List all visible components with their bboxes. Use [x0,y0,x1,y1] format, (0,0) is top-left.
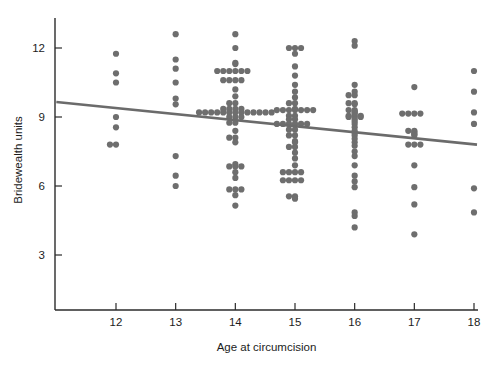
data-point [346,100,352,106]
data-point [352,92,358,98]
data-point [292,162,298,168]
y-tick-label: 6 [39,180,45,192]
data-point [346,92,352,98]
data-point [292,73,298,79]
data-point [173,101,179,107]
data-point [411,84,417,90]
data-point [220,68,226,74]
data-point [232,86,238,92]
x-tick-label: 16 [348,316,361,328]
data-point [471,209,477,215]
data-point [173,183,179,189]
data-point [232,128,238,134]
x-tick-label: 18 [468,316,481,328]
data-point [232,192,238,198]
data-point [292,82,298,88]
data-point [113,79,119,85]
data-point [292,89,298,95]
data-point [232,31,238,37]
data-point [232,93,238,99]
data-point [286,127,292,133]
data-point [226,77,232,83]
chart-figure: 36912 12131415161718 Age at circumcision… [0,0,503,371]
data-point [173,173,179,179]
data-point [286,169,292,175]
data-points-group [107,31,477,237]
data-point [208,109,214,115]
data-point [292,150,298,156]
regression-trend-line [56,102,477,145]
data-point [238,114,244,120]
x-tick-label: 13 [169,316,182,328]
data-point [405,142,411,148]
data-point [310,107,316,113]
data-point [352,101,358,107]
data-point [304,107,310,113]
data-point [214,68,220,74]
data-point [352,224,358,230]
data-point [352,153,358,159]
data-point [352,209,358,215]
data-point [244,109,250,115]
data-point [298,45,304,51]
data-point [173,96,179,102]
data-point [292,63,298,69]
data-point [411,231,417,237]
data-point [286,132,292,138]
data-point [298,177,304,183]
data-point [232,202,238,208]
data-point [471,109,477,115]
y-axis-ticks: 36912 [32,42,62,261]
data-point [471,89,477,95]
data-point [417,110,423,116]
data-point [411,110,417,116]
data-point [471,121,477,127]
data-point [292,94,298,100]
data-point [292,51,298,57]
data-point [232,61,238,67]
data-point [286,177,292,183]
data-point [173,66,179,72]
data-point [352,143,358,149]
data-point [232,100,238,106]
data-point [405,128,411,134]
data-point [346,114,352,120]
y-axis-title: Bridewealth units [12,116,24,204]
data-point [286,144,292,150]
data-point [292,45,298,51]
data-point [173,153,179,159]
data-point [286,45,292,51]
data-point [232,139,238,145]
data-point [244,68,250,74]
scatter-plot: 36912 12131415161718 Age at circumcision… [0,0,503,371]
data-point [238,186,244,192]
data-point [274,107,280,113]
data-point [113,51,119,57]
data-point [292,144,298,150]
y-tick-label: 12 [32,42,45,54]
data-point [286,107,292,113]
data-point [250,109,256,115]
data-point [352,184,358,190]
data-point [220,109,226,115]
data-point [226,186,232,192]
data-point [232,163,238,169]
data-point [352,43,358,49]
data-point [298,169,304,175]
data-point [352,173,358,179]
data-point [226,135,232,141]
data-point [113,124,119,130]
data-point [256,109,262,115]
data-point [196,109,202,115]
data-point [358,114,364,120]
data-point [292,100,298,106]
data-point [214,109,220,115]
data-point [352,162,358,168]
data-point [292,169,298,175]
data-point [226,163,232,169]
data-point [292,177,298,183]
x-tick-label: 12 [110,316,123,328]
data-point [202,109,208,115]
data-point [298,107,304,113]
y-tick-label: 3 [39,249,45,261]
